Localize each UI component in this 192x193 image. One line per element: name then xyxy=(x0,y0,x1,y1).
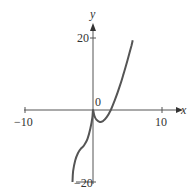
y-axis-arrow-icon xyxy=(90,23,96,31)
origin-label: 0 xyxy=(95,95,101,109)
x-axis-label: x xyxy=(180,103,187,117)
function-curve xyxy=(73,40,133,182)
y-tick-label-20: 20 xyxy=(77,31,89,45)
x-tick-label-neg10: −10 xyxy=(14,115,33,129)
y-axis-label: y xyxy=(89,7,96,21)
x-tick-label-10: 10 xyxy=(155,115,167,129)
y-tick-label-neg20: −20 xyxy=(74,176,93,190)
chart: y x 0 −10 10 20 −20 xyxy=(0,0,192,193)
